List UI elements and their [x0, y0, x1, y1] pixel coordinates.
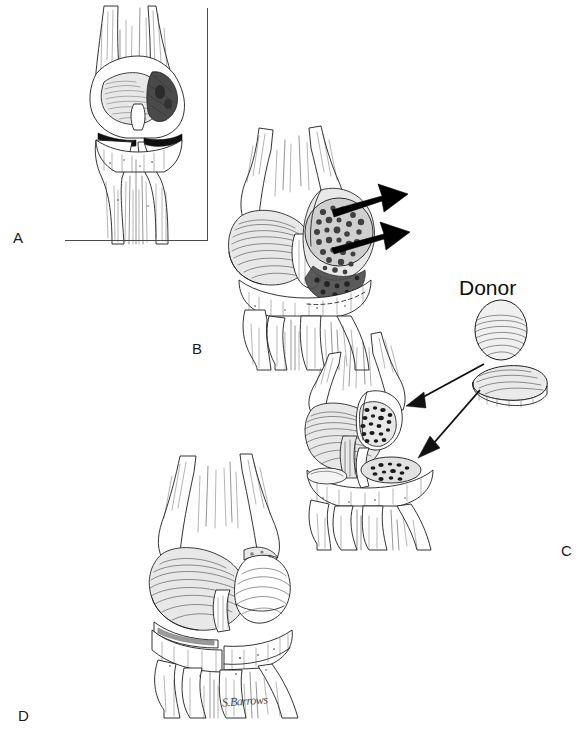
panel-a [60, 0, 220, 250]
artist-signature: S.Barrows [222, 692, 268, 710]
donor-label: Donor [459, 276, 516, 300]
femoral-condyles-a [90, 56, 185, 138]
panel-a-drawing [60, 0, 220, 250]
panel-b-arrows [330, 180, 415, 255]
panel-a-frame-horizontal [65, 240, 208, 241]
graft-transfer-arrows [388, 360, 488, 470]
tibia-a [95, 140, 182, 244]
graft-arrow-femoral [406, 364, 484, 408]
graft-arrow-tibial [418, 390, 480, 458]
panel-label-a: A [13, 229, 24, 246]
panel-c-transfer-arrows [388, 360, 488, 470]
panel-a-frame-vertical [207, 8, 208, 241]
femur-shaft-d [158, 454, 279, 560]
panel-d [140, 450, 340, 720]
panel-label-b: B [192, 340, 203, 357]
panel-label-d: D [18, 707, 29, 724]
resection-arrows-b [330, 180, 415, 255]
femoral-condyle-native-d [149, 548, 246, 631]
illustration-figure: A [0, 0, 587, 734]
resection-arrow-lower [332, 222, 410, 254]
panel-label-c: C [561, 542, 572, 559]
panel-d-drawing [140, 450, 340, 720]
donor-graft-condyle [475, 300, 527, 360]
allograft-condyle-d [235, 547, 291, 623]
allograft-tibial-plateau-d [224, 630, 292, 670]
intercondylar-notch-d [213, 590, 230, 632]
resection-arrow-upper [332, 184, 408, 217]
